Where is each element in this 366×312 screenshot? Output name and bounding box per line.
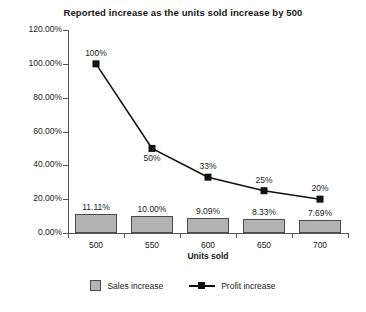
y-axis-tick xyxy=(63,165,68,166)
bar-data-label: 9.09% xyxy=(178,206,238,216)
line-data-label: 20% xyxy=(296,183,344,193)
y-axis-tick xyxy=(63,132,68,133)
legend-label: Profit increase xyxy=(221,281,275,291)
y-axis-tick-label: 100.00% xyxy=(4,58,62,68)
bar-sales-increase[interactable] xyxy=(243,219,284,233)
x-axis-tick xyxy=(348,233,349,238)
x-axis-line xyxy=(68,233,348,234)
x-axis-category-label: 700 xyxy=(292,240,348,250)
y-axis-tick-label: 20.00% xyxy=(4,193,62,203)
bar-data-label: 11.11% xyxy=(66,202,126,212)
bar-sales-increase[interactable] xyxy=(299,220,340,233)
x-axis-category-label: 600 xyxy=(180,240,236,250)
line-data-label: 100% xyxy=(72,48,120,58)
bar-data-label: 7.69% xyxy=(290,208,350,218)
bar-sales-increase[interactable] xyxy=(131,216,172,233)
y-axis-tick-label: 80.00% xyxy=(4,92,62,102)
line-data-label: 25% xyxy=(240,175,288,185)
legend-item-profit-increase[interactable]: Profit increase xyxy=(189,280,275,291)
line-data-label: 50% xyxy=(128,153,176,163)
x-axis-tick xyxy=(292,233,293,238)
x-axis-category-label: 500 xyxy=(68,240,124,250)
line-data-label: 33% xyxy=(184,161,232,171)
y-axis-tick-label: 0.00% xyxy=(4,227,62,237)
chart-title: Reported increase as the units sold incr… xyxy=(0,7,366,18)
x-axis-tick xyxy=(124,233,125,238)
line-marker-icon xyxy=(189,280,215,291)
bar-sales-increase[interactable] xyxy=(75,214,116,233)
chart-container: Reported increase as the units sold incr… xyxy=(0,0,366,312)
legend-item-sales-increase[interactable]: Sales increase xyxy=(90,280,163,291)
bar-data-label: 10.00% xyxy=(122,204,182,214)
x-axis-title: Units sold xyxy=(68,251,348,261)
x-axis-tick xyxy=(180,233,181,238)
square-swatch-icon xyxy=(90,280,101,291)
legend-label: Sales increase xyxy=(107,281,163,291)
y-axis-tick xyxy=(63,30,68,31)
y-axis-tick xyxy=(63,64,68,65)
chart-legend: Sales increase Profit increase xyxy=(0,280,366,291)
y-axis-tick-label: 40.00% xyxy=(4,159,62,169)
y-axis-labels: 0.00%20.00%40.00%60.00%80.00%100.00%120.… xyxy=(0,30,62,234)
x-axis-category-label: 650 xyxy=(236,240,292,250)
y-axis-tick xyxy=(63,98,68,99)
x-axis-category-label: 550 xyxy=(124,240,180,250)
y-axis-tick-label: 120.00% xyxy=(4,24,62,34)
x-axis-tick xyxy=(68,233,69,238)
y-axis-tick-label: 60.00% xyxy=(4,126,62,136)
x-axis-tick xyxy=(236,233,237,238)
y-axis-tick xyxy=(63,199,68,200)
bar-data-label: 8.33% xyxy=(234,207,294,217)
bar-sales-increase[interactable] xyxy=(187,218,228,233)
